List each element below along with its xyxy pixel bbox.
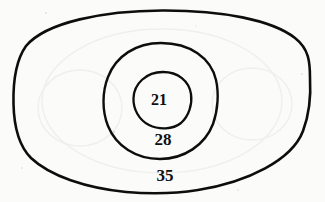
region-inner[interactable]: 21 bbox=[133, 72, 191, 128]
diagram-canvas: 35 28 21 bbox=[0, 0, 325, 202]
nested-set-diagram: 35 28 21 bbox=[0, 0, 325, 202]
inner-region-label: 21 bbox=[151, 91, 167, 108]
outer-region-label: 35 bbox=[157, 166, 174, 185]
middle-region-label: 28 bbox=[155, 130, 172, 149]
